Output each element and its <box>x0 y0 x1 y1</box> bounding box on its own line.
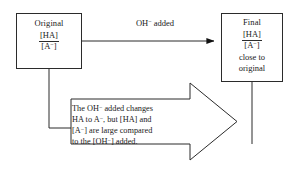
node-original: Original [HA] [A−] <box>16 13 82 69</box>
callout-arrow-text: The OH− added changes HA to A−, but [HA]… <box>72 104 184 148</box>
callout-line-4-b: ] added. <box>111 137 138 146</box>
callout-line-4-a: to the [OH <box>72 137 108 146</box>
callout-line-1: The OH− added changes <box>72 104 184 115</box>
connector-original-to-callout <box>49 69 71 128</box>
denominator-base: [A <box>244 40 253 50</box>
callout-line-1-b: added changes <box>102 104 153 113</box>
callout-line-2: HA to A−, but [HA] and <box>72 115 184 126</box>
flowchart-diagram: Original [HA] [A−] Final [HA] [A−] close… <box>0 0 301 187</box>
node-final: Final [HA] [A−] close to original <box>221 13 283 82</box>
callout-line-2-a: HA to A <box>72 115 100 124</box>
node-final-title: Final <box>222 18 282 27</box>
callout-line-2-b: , but [HA] and <box>103 115 151 124</box>
denominator-close: ] <box>257 40 260 50</box>
node-original-title: Original <box>17 19 81 28</box>
node-final-ratio-denominator: [A−] <box>242 41 262 51</box>
top-arrow-label-base: OH <box>136 18 148 28</box>
node-final-subtext-line1: close to <box>222 53 282 62</box>
callout-line-3: [A−] are large compared <box>72 126 184 137</box>
node-original-ratio-denominator: [A−] <box>39 42 59 52</box>
node-final-ratio-numerator: [HA] <box>242 30 262 41</box>
callout-line-3-b: ] are large compared <box>84 126 152 135</box>
node-final-ratio: [HA] [A−] <box>242 30 262 51</box>
denominator-base: [A <box>41 41 50 51</box>
callout-line-4: to the [OH−] added. <box>72 137 184 148</box>
callout-line-1-a: The OH <box>72 104 99 113</box>
top-arrow-label: OH− added <box>112 18 198 28</box>
top-arrow-label-rest: added <box>152 18 174 28</box>
node-original-ratio-numerator: [HA] <box>39 31 59 42</box>
callout-line-3-a: [A <box>72 126 81 135</box>
denominator-close: ] <box>54 41 57 51</box>
node-original-ratio: [HA] [A−] <box>39 31 59 52</box>
node-final-subtext-line2: original <box>222 64 282 73</box>
